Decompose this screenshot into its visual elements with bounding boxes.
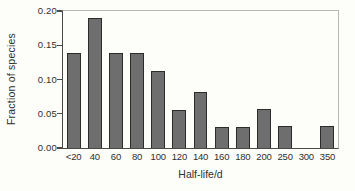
bar-80 [130,53,144,148]
x-axis-labels: <20406080100120140160180200250300350 [63,151,338,162]
x-tick-label: 40 [84,151,105,162]
x-tick-label: 250 [275,151,296,162]
x-tick-label: 100 [148,151,169,162]
y-tick-label: 0.05 [21,109,57,119]
bar-350 [320,126,334,148]
bar-chart-figure: Fraction of species <2040608010012014016… [0,0,355,191]
y-tick-label: 0.20 [21,6,57,16]
bar-slot [296,11,317,148]
bar-slot [190,11,211,148]
y-tick-label: 0.00 [21,143,57,153]
bar-slot [126,11,147,148]
bar-200 [257,109,271,148]
y-tick-mark [57,45,62,46]
bar-120 [172,110,186,148]
bar-250 [278,126,292,148]
x-axis-title: Half-life/d [62,168,339,180]
x-tick-label: 300 [296,151,317,162]
x-tick-label: 120 [169,151,190,162]
x-tick-label: <20 [63,151,84,162]
y-tick-label: 0.10 [21,75,57,85]
bar-100 [151,71,165,148]
x-tick-label: 180 [232,151,253,162]
y-tick-mark [57,147,62,148]
bars-container [63,11,338,148]
bar-slot [232,11,253,148]
y-tick-mark [57,79,62,80]
bar-slot [317,11,338,148]
bar-60 [109,53,123,148]
bar-160 [215,127,229,148]
x-tick-label: 200 [253,151,274,162]
bar-slot [63,11,84,148]
bar-slot [253,11,274,148]
bar-slot [211,11,232,148]
x-tick-label: 140 [190,151,211,162]
y-axis-title: Fraction of species [3,10,18,149]
bar-slot [169,11,190,148]
bar-slot [275,11,296,148]
y-tick-mark [57,113,62,114]
bar-40 [88,18,102,148]
bar-slot [148,11,169,148]
plot-area: <20406080100120140160180200250300350 0.0… [62,10,339,149]
x-tick-label: 60 [105,151,126,162]
bar-180 [236,127,250,148]
bar-slot [105,11,126,148]
bar-140 [194,92,208,148]
bar-slot [84,11,105,148]
x-tick-label: 80 [126,151,147,162]
x-tick-label: 160 [211,151,232,162]
bar-lt20 [67,53,81,148]
y-tick-label: 0.15 [21,40,57,50]
y-tick-mark [57,10,62,11]
x-tick-label: 350 [317,151,338,162]
